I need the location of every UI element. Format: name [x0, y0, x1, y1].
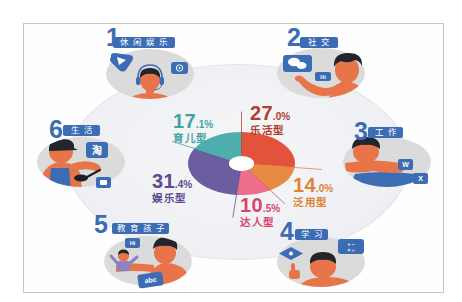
scenario-number-1: 1 [106, 25, 120, 50]
scenario-label-educating-children: 教育孩子 [112, 223, 169, 234]
percent-value: 31.4% [152, 173, 192, 193]
category-name: 泛用型 [293, 197, 333, 208]
label-yule: 31.4% 娱乐型 [152, 173, 192, 204]
taobao-icon-text: 淘 [92, 144, 102, 156]
percent-decimal: .1% [196, 119, 213, 130]
scene-leisure [106, 49, 194, 99]
word-icon-text: W [402, 161, 409, 168]
donut-hole [229, 156, 254, 171]
percent-integer: 27 [250, 102, 273, 124]
wechat-icon [283, 55, 312, 72]
excel-icon-text: X [418, 175, 423, 182]
scene-educating-children: Hi abc [104, 236, 192, 286]
scenario-label-social: 社交 [300, 37, 338, 48]
scenario-number-5: 5 [94, 212, 108, 237]
category-name: 娱乐型 [152, 193, 192, 204]
calculator-keys-row2: × ÷ [347, 247, 354, 253]
thumbs-up-icon [289, 270, 300, 279]
scenario-label-study: 学习 [295, 229, 328, 240]
hi-chat-icon: Hi [125, 238, 140, 248]
scenario-label-work: 工作 [368, 127, 403, 138]
percent-decimal: .0% [316, 183, 333, 194]
frying-pan-icon [74, 175, 88, 182]
apron [49, 168, 71, 189]
scene-daily-life: 淘 [37, 137, 125, 187]
word-icon: W [398, 159, 413, 170]
hi-chat-text: Hi [130, 240, 136, 246]
percent-value: 10.5% [240, 197, 280, 217]
label-fanyong: 14.0% 泛用型 [293, 177, 333, 208]
hi-chat-icon: Hi [315, 72, 331, 81]
label-yuer: 17.1% 育儿型 [173, 113, 213, 144]
category-name: 育儿型 [173, 133, 213, 144]
percent-decimal: .0% [273, 111, 290, 122]
label-daren: 10.5% 达人型 [240, 197, 280, 228]
card-icon [96, 177, 111, 188]
percent-value: 17.1% [173, 113, 213, 133]
label-lehuo: 27.0% 乐活型 [250, 105, 290, 136]
percent-value: 14.0% [293, 177, 333, 197]
taobao-icon: 淘 [86, 142, 108, 158]
excel-icon: X [413, 173, 428, 184]
scenario-number-2: 2 [287, 25, 301, 50]
percent-integer: 10 [240, 194, 263, 216]
scenario-number-6: 6 [49, 117, 63, 142]
percent-decimal: .4% [175, 179, 192, 190]
category-name: 乐活型 [250, 125, 290, 136]
infographic-page: { "chart_data": { "type": "pie", "varian… [0, 0, 462, 302]
scenario-label-leisure: 休闲娱乐 [113, 37, 175, 48]
percent-value: 27.0% [250, 105, 290, 125]
hi-chat-text: Hi [320, 74, 326, 80]
scenario-number-4: 4 [280, 219, 294, 244]
percent-integer: 14 [293, 174, 316, 196]
calculator-icon: + − × ÷ [338, 239, 364, 254]
music-icon [171, 62, 188, 74]
scene-social: Hi [277, 48, 365, 98]
percent-integer: 17 [173, 110, 196, 132]
percent-decimal: .5% [263, 203, 280, 214]
scenario-label-daily-life: 生活 [63, 125, 100, 136]
category-name: 达人型 [240, 217, 280, 228]
scenario-number-3: 3 [354, 119, 368, 144]
percent-integer: 31 [152, 170, 175, 192]
